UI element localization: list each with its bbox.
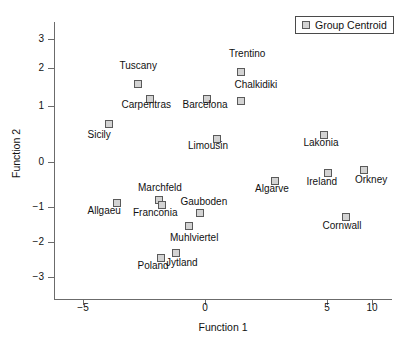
data-point-label-orkney: Orkney <box>355 175 387 185</box>
data-point-label-muhlviertel: Muhlviertel <box>170 233 218 243</box>
y-tick-mark <box>48 106 54 107</box>
y-tick-mark <box>48 277 54 278</box>
y-tick-mark <box>48 39 54 40</box>
y-axis-title: Function 2 <box>11 114 22 194</box>
data-point-label-franconia: Franconia <box>133 208 177 218</box>
x-tick-label: −5 <box>70 303 96 313</box>
y-tick-mark <box>48 162 54 163</box>
data-point-label-algarve: Algarve <box>255 184 289 194</box>
y-tick-mark <box>48 68 54 69</box>
data-point-label-marchfeld: Marchfeld <box>138 183 182 193</box>
y-tick-label: 3 <box>26 34 44 44</box>
y-tick-label: 1 <box>26 101 44 111</box>
data-point-label-cornwall: Cornwall <box>323 221 362 231</box>
data-point-muhlviertel[interactable] <box>185 222 193 230</box>
data-point-label-chalkidiki: Chalkidiki <box>235 80 278 90</box>
data-point-label-allgaeu: Allgaeu <box>88 206 121 216</box>
data-point-jytland[interactable] <box>172 249 180 257</box>
data-point-label-sicily: Sicily <box>88 130 111 140</box>
x-tick-label: 10 <box>359 303 385 313</box>
data-point-sicily[interactable] <box>105 120 113 128</box>
y-tick-label: −2 <box>26 237 44 247</box>
y-tick-mark <box>48 242 54 243</box>
x-axis-title: Function 1 <box>54 322 392 333</box>
y-tick-label: 0 <box>26 157 44 167</box>
data-point-label-jytland: Jytland <box>166 258 198 268</box>
data-point-tuscany[interactable] <box>134 80 142 88</box>
x-axis-line <box>54 299 392 300</box>
data-point-label-gauboden: Gauboden <box>181 197 228 207</box>
y-tick-label: 2 <box>26 63 44 73</box>
y-axis-line <box>54 22 55 300</box>
legend-square-icon <box>302 21 310 29</box>
data-point-gauboden[interactable] <box>196 209 204 217</box>
data-point-trentino[interactable] <box>237 68 245 76</box>
x-tick-label: 0 <box>192 303 218 313</box>
data-point-label-poland: Poland <box>138 261 169 271</box>
data-point-chalkidiki[interactable] <box>237 97 245 105</box>
legend: Group Centroid <box>295 16 394 34</box>
data-point-label-trentino: Trentino <box>229 49 265 59</box>
x-tick-label: 5 <box>314 303 340 313</box>
legend-label: Group Centroid <box>315 20 387 31</box>
data-point-label-ireland: Ireland <box>307 177 338 187</box>
data-point-label-tuscany: Tuscany <box>120 61 157 71</box>
y-tick-label: −3 <box>26 272 44 282</box>
data-point-label-limousin: Limousin <box>188 141 228 151</box>
y-tick-label: −1 <box>26 202 44 212</box>
y-tick-mark <box>48 207 54 208</box>
data-point-label-carpentras: Carpentras <box>122 100 171 110</box>
data-point-orkney[interactable] <box>360 166 368 174</box>
scatter-plot: 3210−1−2−3 −50510 Function 2 Function 1 … <box>0 0 402 344</box>
data-point-label-lakonia: Lakonia <box>304 138 339 148</box>
data-point-label-barcelona: Barcelona <box>183 100 228 110</box>
